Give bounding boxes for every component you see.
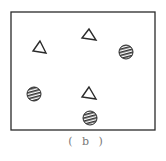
hatched-circle-icon [119,45,133,59]
hatched-circle-icon [27,87,41,101]
frame-rectangle [11,12,155,130]
triangle-icon [82,87,96,99]
figure-caption: ( b ) [0,135,166,148]
hatched-circle-icon [83,111,97,125]
triangle-icon [82,29,96,40]
triangle-icon [33,41,46,53]
